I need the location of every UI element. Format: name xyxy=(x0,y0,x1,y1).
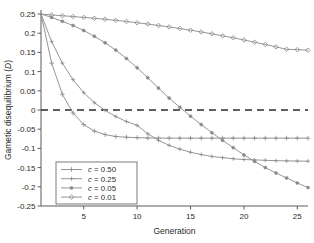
point-marker xyxy=(242,153,245,156)
point-marker xyxy=(274,171,277,174)
point-marker xyxy=(72,24,75,27)
point-marker xyxy=(285,176,288,179)
series-path xyxy=(41,14,308,138)
point-marker xyxy=(61,20,64,23)
point-marker xyxy=(221,139,224,142)
y-tick-label: 0.2 xyxy=(24,29,36,38)
x-tick-label: 5 xyxy=(81,212,86,221)
point-marker xyxy=(178,106,181,109)
point-marker xyxy=(296,181,299,184)
y-tick-label: 0.1 xyxy=(24,68,36,77)
y-tick-label: 0.25 xyxy=(20,10,36,19)
y-tick-label: 0 xyxy=(31,106,36,115)
series-path xyxy=(41,14,308,188)
point-marker xyxy=(200,123,203,126)
point-marker xyxy=(136,66,139,69)
x-tick-label: 25 xyxy=(293,212,302,221)
y-axis-title: Gametic disequilibrium (D) xyxy=(3,60,13,160)
chart-figure: 0.250.20.150.10.050-0.05-0.1-0.15-0.2-0.… xyxy=(0,0,314,243)
point-marker xyxy=(210,131,213,134)
y-tick-label: -0.05 xyxy=(17,125,36,134)
line-chart: 0.250.20.150.10.050-0.05-0.1-0.15-0.2-0.… xyxy=(0,0,314,243)
point-marker xyxy=(82,29,85,32)
point-marker xyxy=(70,186,73,189)
point-marker xyxy=(157,87,160,90)
legend-label: c = 0.01 xyxy=(88,193,116,202)
legend-label: c = 0.05 xyxy=(88,184,117,193)
point-marker xyxy=(114,49,117,52)
legend-label: c = 0.25 xyxy=(88,175,117,184)
point-marker xyxy=(93,35,96,38)
series-3 xyxy=(41,13,310,53)
series-path xyxy=(41,14,308,50)
x-tick-label: 20 xyxy=(239,212,248,221)
series-0 xyxy=(41,14,310,141)
legend: c = 0.50c = 0.25c = 0.05c = 0.01 xyxy=(56,162,137,204)
y-tick-label: -0.1 xyxy=(22,144,36,153)
y-tick-label: -0.25 xyxy=(17,202,36,211)
x-tick-label: 15 xyxy=(186,212,195,221)
x-axis-title: Generation xyxy=(153,226,195,236)
point-marker xyxy=(264,166,267,169)
series-path xyxy=(41,14,308,161)
y-tick-label: -0.15 xyxy=(17,164,36,173)
y-tick-label: 0.05 xyxy=(20,87,36,96)
point-marker xyxy=(146,76,149,79)
point-marker xyxy=(307,186,310,189)
point-marker xyxy=(125,57,128,60)
series-1 xyxy=(41,14,310,163)
legend-label: c = 0.50 xyxy=(88,165,117,174)
y-tick-label: 0.15 xyxy=(20,48,36,57)
point-marker xyxy=(189,115,192,118)
point-marker xyxy=(253,160,256,163)
point-marker xyxy=(232,146,235,149)
x-tick-label: 10 xyxy=(133,212,142,221)
y-tick-label: -0.2 xyxy=(22,183,36,192)
point-marker xyxy=(104,41,107,44)
point-marker xyxy=(168,97,171,100)
